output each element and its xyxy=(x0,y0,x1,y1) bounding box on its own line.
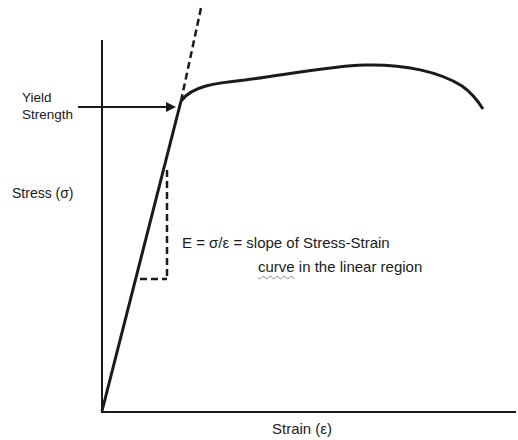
yield-label-line1: Yield xyxy=(22,89,73,106)
x-axis-label: Strain (ε) xyxy=(272,420,332,438)
modulus-annotation-line1: E = σ/ε = slope of Stress-Strain xyxy=(182,234,390,252)
curve-word: curve xyxy=(258,258,295,275)
stress-strain-diagram xyxy=(0,0,518,440)
yield-strength-label: Yield Strength xyxy=(22,89,73,123)
yield-label-line2: Strength xyxy=(22,106,73,123)
modulus-line2-rest: in the linear region xyxy=(295,258,423,275)
y-axis-label: Stress (σ) xyxy=(12,184,74,202)
modulus-annotation-line2: curve in the linear region xyxy=(258,258,422,276)
plastic-curve xyxy=(181,65,483,109)
linear-elastic-segment xyxy=(102,101,181,411)
